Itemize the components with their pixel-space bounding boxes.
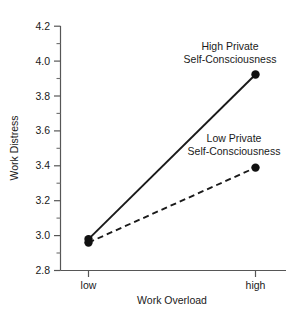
line-chart: 2.8 3.0 3.2 3.4 3.6 3.8 4.0 4.2 low high…: [0, 0, 301, 312]
y-tick-label-3.2: 3.2: [35, 194, 50, 206]
y-tick-label-3.8: 3.8: [35, 90, 50, 102]
chart-figure: 2.8 3.0 3.2 3.4 3.6 3.8 4.0 4.2 low high…: [0, 0, 301, 312]
y-tick-label-3.6: 3.6: [35, 124, 50, 136]
y-tick-label-3.0: 3.0: [35, 229, 50, 241]
x-tick-label-low: low: [81, 279, 97, 291]
x-tick-label-high: high: [246, 279, 266, 291]
series-high-private-point-high: [251, 70, 259, 78]
series-low-private-label-line2: Self-Consciousness: [188, 145, 281, 157]
series-low-private-label-line1: Low Private: [207, 132, 262, 144]
series-high-private-label-line2: Self-Consciousness: [184, 53, 277, 65]
y-tick-label-4.0: 4.0: [35, 55, 50, 67]
series-high-private-label-line1: High Private: [201, 40, 258, 52]
y-tick-label-4.2: 4.2: [35, 20, 50, 32]
y-tick-label-3.4: 3.4: [35, 159, 50, 171]
y-axis-title: Work Distress: [8, 115, 20, 180]
series-low-private-point-high: [251, 163, 259, 171]
series-low-private-line: [89, 168, 256, 243]
y-tick-label-2.8: 2.8: [35, 264, 50, 276]
x-axis-title: Work Overload: [137, 294, 207, 306]
series-low-private-point-low: [84, 238, 92, 246]
